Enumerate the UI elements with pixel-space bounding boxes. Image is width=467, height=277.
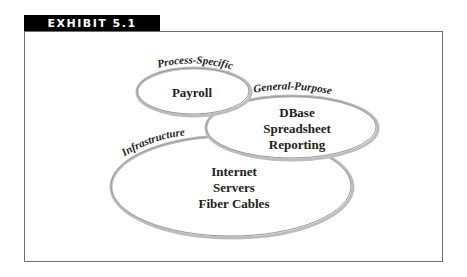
item-spreadsheet: Spreadsheet bbox=[263, 121, 331, 136]
item-internet: Internet bbox=[211, 164, 257, 179]
layered-ellipse-diagram: Process-Specific General-Purpose Infrast… bbox=[0, 0, 467, 277]
item-reporting: Reporting bbox=[269, 137, 326, 152]
item-fiber-cables: Fiber Cables bbox=[199, 196, 270, 211]
item-servers: Servers bbox=[213, 180, 255, 195]
category-label-general-purpose: General-Purpose bbox=[252, 79, 333, 96]
item-dbase: DBase bbox=[279, 105, 315, 120]
item-payroll: Payroll bbox=[172, 85, 213, 100]
